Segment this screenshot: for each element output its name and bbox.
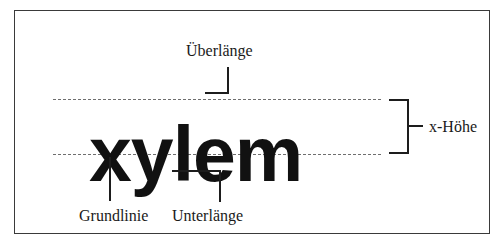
typography-diagram: xylem Überlänge x-Höhe Grundlinie Unterl…	[0, 0, 504, 246]
leader-line-grundlinie	[109, 157, 111, 201]
label-unterlaenge: Unterlänge	[172, 208, 243, 224]
diagram-frame: xylem Überlänge x-Höhe Grundlinie Unterl…	[14, 10, 490, 234]
label-ueberlaenge: Überlänge	[186, 43, 253, 59]
xheight-bracket-tick	[409, 125, 423, 127]
leader-line-ueberlaenge-horizontal	[205, 92, 229, 94]
leader-line-unterlaenge-horizontal	[172, 170, 221, 172]
xheight-bracket-bottom-arm	[389, 152, 409, 154]
leader-line-ueberlaenge-vertical	[227, 67, 229, 94]
leader-line-unterlaenge-vertical	[219, 170, 221, 202]
label-x-hoehe: x-Höhe	[429, 119, 477, 135]
label-grundlinie: Grundlinie	[79, 208, 148, 224]
x-height-guide-line	[53, 99, 381, 100]
xheight-bracket-top-arm	[389, 99, 409, 101]
